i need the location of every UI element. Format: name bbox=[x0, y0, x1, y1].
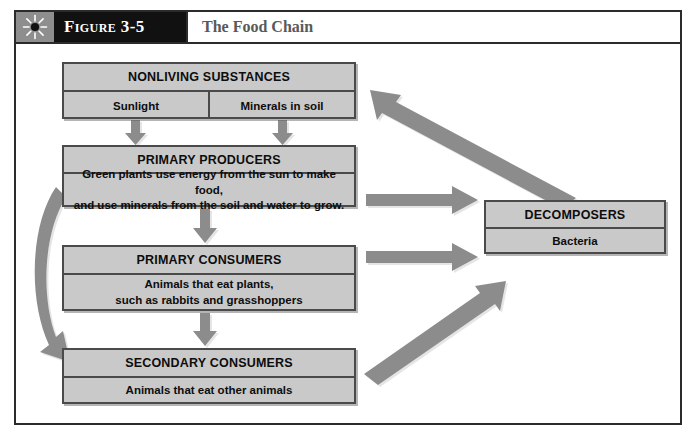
node-primary-producers-body-line2: and use minerals from the soil and water… bbox=[74, 199, 345, 211]
node-nonliving-substances-cells: Sunlight Minerals in soil bbox=[64, 92, 354, 119]
node-primary-consumers[interactable]: PRIMARY CONSUMERS Animals that eat plant… bbox=[62, 245, 356, 311]
figure-title: The Food Chain bbox=[186, 12, 680, 42]
figure-number-label: Figure 3-5 bbox=[64, 17, 145, 37]
node-nonliving-substances-title: NONLIVING SUBSTANCES bbox=[64, 64, 354, 90]
node-primary-consumers-body: Animals that eat plants, such as rabbits… bbox=[64, 275, 354, 311]
figure-title-label: The Food Chain bbox=[202, 18, 313, 36]
node-decomposers-body: Bacteria bbox=[486, 229, 664, 254]
node-decomposers-title: DECOMPOSERS bbox=[486, 202, 664, 227]
node-nonliving-substances[interactable]: NONLIVING SUBSTANCES Sunlight Minerals i… bbox=[62, 62, 356, 119]
node-primary-producers-body-line1: Green plants use energy from the sun to … bbox=[82, 168, 336, 196]
node-secondary-consumers-body: Animals that eat other animals bbox=[64, 378, 354, 404]
cell-minerals-in-soil: Minerals in soil bbox=[210, 92, 354, 119]
node-secondary-consumers-title: SECONDARY CONSUMERS bbox=[64, 350, 354, 376]
node-primary-consumers-title: PRIMARY CONSUMERS bbox=[64, 247, 354, 273]
figure-root: Figure 3-5 The Food Chain bbox=[0, 0, 700, 440]
node-primary-producers-body: Green plants use energy from the sun to … bbox=[64, 174, 354, 207]
cell-sunlight: Sunlight bbox=[64, 92, 208, 119]
figure-header: Figure 3-5 The Food Chain bbox=[14, 10, 682, 44]
node-primary-consumers-body-line2: such as rabbits and grasshoppers bbox=[115, 294, 302, 306]
node-secondary-consumers[interactable]: SECONDARY CONSUMERS Animals that eat oth… bbox=[62, 348, 356, 404]
figure-number: Figure 3-5 bbox=[54, 12, 186, 42]
sun-burst-icon bbox=[16, 12, 54, 42]
node-primary-consumers-body-line1: Animals that eat plants, bbox=[144, 278, 273, 290]
node-decomposers[interactable]: DECOMPOSERS Bacteria bbox=[484, 200, 666, 254]
node-primary-producers[interactable]: PRIMARY PRODUCERS Green plants use energ… bbox=[62, 145, 356, 207]
